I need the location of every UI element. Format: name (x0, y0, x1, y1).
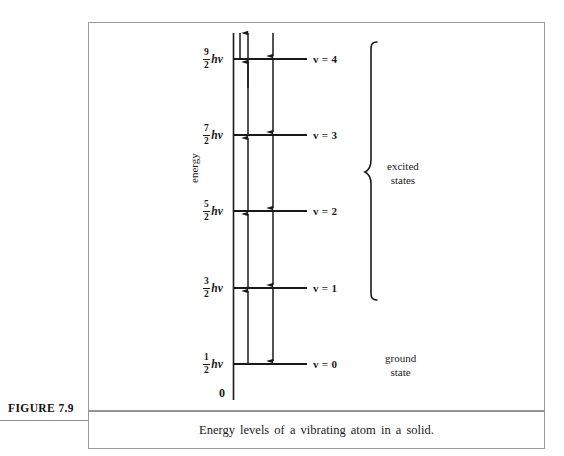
figure-caption: Energy levels of a vibrating atom in a s… (199, 423, 434, 438)
quantum-number-label-v1: v = 1 (313, 282, 337, 294)
energy-axis-label: energy (188, 123, 200, 183)
figure-root: FIGURE 7.9 (0, 0, 564, 456)
fraction-5-2: 5 2 (203, 200, 210, 222)
energy-level-diagram: energy 0 9 2 hν 7 2 hν 5 2 (0, 0, 564, 456)
energy-label-v0: 1 2 hν (203, 353, 223, 375)
fraction-3-2: 3 2 (203, 277, 210, 299)
energy-unit-v4: hν (211, 53, 223, 65)
excited-states-brace (365, 42, 377, 300)
energy-label-v2: 5 2 hν (203, 200, 223, 222)
energy-unit-v2: hν (211, 205, 223, 217)
fraction-1-2: 1 2 (203, 353, 210, 375)
quantum-number-label-v3: v = 3 (313, 129, 337, 141)
energy-label-v4: 9 2 hν (203, 48, 223, 70)
level-lines (233, 59, 307, 364)
energy-unit-v0: hν (211, 358, 223, 370)
quantum-number-label-v4: v = 4 (313, 53, 337, 65)
excited-states-label: excited states (387, 160, 419, 188)
ground-state-label: ground state (385, 352, 416, 380)
energy-label-v3: 7 2 hν (203, 124, 223, 146)
quantum-number-label-v0: v = 0 (313, 358, 337, 370)
quantum-number-label-v2: v = 2 (313, 205, 337, 217)
fraction-9-2: 9 2 (203, 48, 210, 70)
caption-band: Energy levels of a vibrating atom in a s… (88, 411, 545, 449)
fraction-7-2: 7 2 (203, 124, 210, 146)
energy-unit-v3: hν (211, 129, 223, 141)
energy-unit-v1: hν (211, 282, 223, 294)
energy-label-v1: 3 2 hν (203, 277, 223, 299)
axis-origin-label: 0 (219, 386, 225, 401)
